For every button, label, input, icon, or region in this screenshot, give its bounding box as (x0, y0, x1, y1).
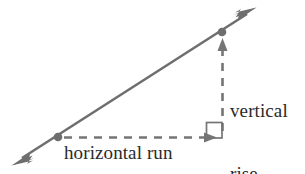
vertical-rise-label: vertical rise (230, 58, 288, 174)
upper-right-point-marker (218, 28, 227, 37)
lower-left-point-marker (54, 133, 63, 142)
vertical-rise-label-line2: rise (230, 163, 288, 174)
vertical-rise-label-line1: vertical (230, 100, 288, 121)
main-line-arrowhead-upper-right-fill (234, 8, 257, 21)
vertical-rise-arrowhead (218, 38, 228, 51)
main-line-arrowhead-lower-left-fill (12, 153, 35, 166)
slope-diagram-figure: vertical rise horizontal run (0, 0, 305, 174)
horizontal-run-label: horizontal run (64, 142, 173, 163)
vertical-rise-arrow-group (218, 38, 228, 131)
horizontal-run-arrow-group (64, 133, 217, 143)
